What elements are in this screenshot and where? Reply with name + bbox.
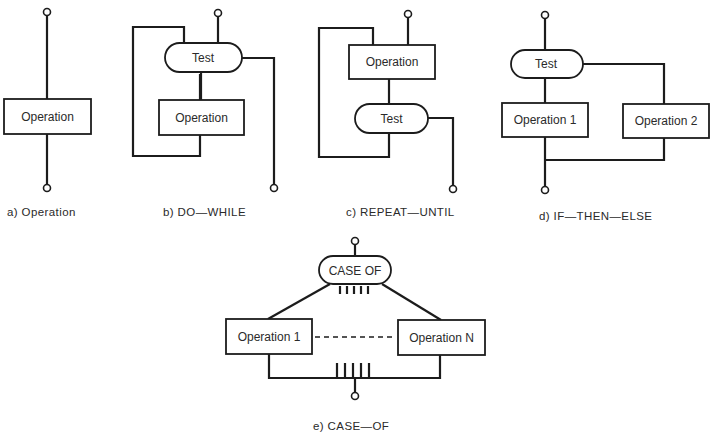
exit-terminal-icon xyxy=(542,187,549,194)
diagram-repeat-until: Operation Test c) REPEAT—UNTIL xyxy=(319,11,457,219)
entry-terminal-icon xyxy=(352,238,359,245)
test-label: Test xyxy=(380,112,403,126)
entry-terminal-icon xyxy=(405,11,412,18)
diagram-operation: Operation a) Operation xyxy=(4,9,91,219)
entry-terminal-icon xyxy=(44,9,51,16)
operation-label: Operation xyxy=(21,110,74,124)
entry-terminal-icon xyxy=(215,10,222,17)
structured-programming-diagram: Operation a) Operation Test Operation b)… xyxy=(0,0,715,443)
else-branch-line xyxy=(583,64,664,104)
join-branch-ticks xyxy=(337,363,369,378)
exit-terminal-icon xyxy=(44,185,51,192)
branch-line-n xyxy=(382,284,441,320)
operation-label: Operation xyxy=(366,55,419,69)
exit-terminal-icon xyxy=(352,393,359,400)
operation-1-label: Operation 1 xyxy=(514,113,577,127)
join-line xyxy=(545,138,664,160)
operation-label: Operation xyxy=(175,111,228,125)
case-branch-ticks xyxy=(340,286,368,294)
exit-terminal-icon xyxy=(450,186,457,193)
operation-n-label: Operation N xyxy=(409,331,474,345)
join-line xyxy=(269,354,440,378)
case-label: CASE OF xyxy=(329,264,382,278)
test-label: Test xyxy=(535,57,558,71)
entry-terminal-icon xyxy=(542,12,549,19)
test-label: Test xyxy=(192,51,215,65)
diagram-do-while: Test Operation b) DO—WHILE xyxy=(133,10,278,219)
exit-line xyxy=(428,118,453,185)
branch-line-1 xyxy=(268,284,330,319)
caption-c: c) REPEAT—UNTIL xyxy=(346,206,455,218)
caption-e: e) CASE—OF xyxy=(313,420,389,432)
exit-line xyxy=(242,58,274,184)
operation-2-label: Operation 2 xyxy=(635,114,698,128)
diagram-case-of: CASE OF Operation 1 Operation N e) CAS xyxy=(226,238,485,433)
caption-b: b) DO—WHILE xyxy=(163,206,246,218)
diagram-if-then-else: Test Operation 1 Operation 2 d) IF—THEN—… xyxy=(502,12,709,223)
exit-terminal-icon xyxy=(271,185,278,192)
caption-a: a) Operation xyxy=(7,206,76,218)
caption-d: d) IF—THEN—ELSE xyxy=(539,210,652,222)
operation-1-label: Operation 1 xyxy=(238,330,301,344)
